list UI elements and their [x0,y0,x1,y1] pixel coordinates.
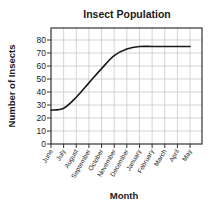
grid-lines [51,28,202,144]
y-tick-label: 70 [37,48,47,58]
y-tick-label: 80 [37,35,47,45]
y-axis-label: Number of Insects [6,45,17,128]
y-tick-label: 20 [37,113,47,123]
y-tick-label: 50 [37,74,47,84]
y-tick-label: 10 [37,126,47,136]
x-tick-label: March [152,148,167,168]
chart-title: Insect Population [83,8,171,20]
x-tick-label: May [181,147,195,162]
y-tick-label: 40 [37,87,47,97]
y-tick-label: 0 [41,139,46,149]
x-tick-label: April [168,148,182,164]
population-line [51,46,190,110]
x-tick-label: June [41,148,54,164]
y-tick-label: 60 [37,61,47,71]
y-tick-label: 30 [37,100,47,110]
x-axis-ticks: JuneJulyAugustSeptemberOctoberNovemberDe… [41,144,194,180]
line-chart: Insect Population 01020304050607080 June… [0,0,213,206]
y-axis-ticks: 01020304050607080 [37,35,51,149]
x-axis-label: Month [110,190,139,201]
